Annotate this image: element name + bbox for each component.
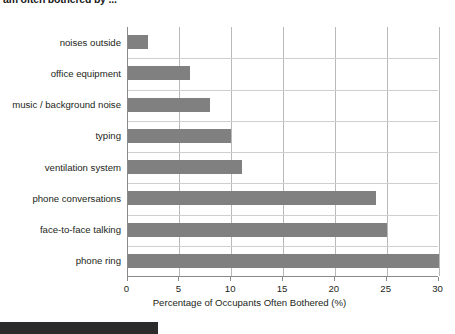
caption-strip	[0, 322, 158, 334]
x-tick-mark-0	[127, 277, 128, 281]
bar-row	[128, 90, 438, 121]
bar-face-to-face-talking	[128, 223, 387, 237]
bar-row	[128, 246, 438, 277]
y-axis-label: phone conversations	[0, 193, 121, 204]
y-axis-label: music / background noise	[0, 99, 121, 110]
x-tick-mark-25	[386, 277, 387, 281]
bar-row	[128, 121, 438, 152]
x-tick-label-15: 15	[269, 283, 295, 294]
gridline-30	[439, 27, 440, 276]
y-axis-label: office equipment	[0, 68, 121, 79]
bar-phone-conversations	[128, 191, 377, 205]
x-axis-title: Percentage of Occupants Often Bothered (…	[0, 297, 455, 308]
bar-chart-figure: noises outsideoffice equipmentmusic / ba…	[0, 0, 455, 312]
bar-office-equipment	[128, 66, 190, 80]
bar-row	[128, 152, 438, 183]
x-tick-mark-30	[438, 277, 439, 281]
bar-typing	[128, 129, 232, 143]
x-tick-mark-15	[282, 277, 283, 281]
x-tick-label-25: 25	[373, 283, 399, 294]
x-tick-label-10: 10	[217, 283, 243, 294]
y-axis-label: noises outside	[0, 37, 121, 48]
x-tick-label-20: 20	[321, 283, 347, 294]
bar-row	[128, 58, 438, 89]
x-tick-mark-20	[334, 277, 335, 281]
x-tick-mark-5	[178, 277, 179, 281]
bar-music-background-noise	[128, 98, 211, 112]
plot-area	[127, 27, 438, 277]
bar-row	[128, 215, 438, 246]
y-axis-label: typing	[0, 130, 121, 141]
x-tick-label-5: 5	[165, 283, 191, 294]
bar-row	[128, 27, 438, 58]
x-tick-label-0: 0	[114, 283, 140, 294]
y-axis-label: face-to-face talking	[0, 224, 121, 235]
bar-phone-ring	[128, 254, 439, 268]
bar-noises-outside	[128, 35, 149, 49]
y-axis-label: ventilation system	[0, 162, 121, 173]
x-tick-label-30: 30	[425, 283, 451, 294]
bar-row	[128, 183, 438, 214]
y-axis-label: phone ring	[0, 255, 121, 266]
bar-ventilation-system	[128, 160, 242, 174]
x-tick-mark-10	[230, 277, 231, 281]
